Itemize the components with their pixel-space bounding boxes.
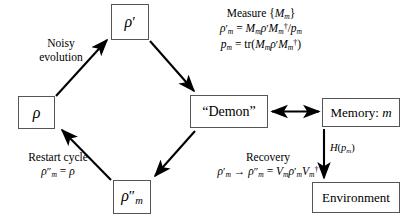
state-rho-box: ρ bbox=[18, 96, 55, 129]
state-rho-double-prime-box: ρ″m bbox=[113, 180, 151, 214]
memory-box: Memory: m bbox=[322, 98, 400, 127]
restart-cycle-formula: ρ″m = ρ bbox=[2, 164, 114, 179]
restart-cycle-line1: Restart cycle bbox=[2, 150, 114, 164]
noisy-evolution-label: Noisy evolution bbox=[12, 36, 110, 64]
measure-formula-rho: ρ′m = Mmρ′Mm†/pm bbox=[193, 21, 329, 36]
state-rho-label: ρ bbox=[33, 105, 41, 121]
measure-formula-p: pm = tr(Mmρ′Mm†) bbox=[193, 37, 329, 52]
demon-label: “Demon” bbox=[202, 105, 256, 119]
noisy-evolution-line2: evolution bbox=[12, 50, 110, 64]
environment-box: Environment bbox=[312, 182, 400, 213]
state-rho-prime-box: ρ′ bbox=[111, 4, 149, 40]
maxwell-demon-cycle-diagram: ρ ρ′ ρ″m “Demon” Memory: m Environment N… bbox=[0, 0, 411, 218]
recovery-line1: Recovery bbox=[188, 150, 348, 164]
recovery-formula: ρ′m → ρ″m = Vmρ′mVm† bbox=[188, 164, 348, 179]
measure-line1: Measure {Mm} bbox=[193, 6, 329, 21]
state-rho-double-prime-label: ρ″m bbox=[121, 188, 143, 207]
arrow-rho-prime-to-demon bbox=[150, 41, 194, 91]
restart-cycle-label: Restart cycle ρ″m = ρ bbox=[2, 150, 114, 179]
state-rho-prime-label: ρ′ bbox=[124, 14, 135, 30]
measure-label: Measure {Mm} ρ′m = Mmρ′Mm†/pm pm = tr(Mm… bbox=[193, 6, 329, 52]
noisy-evolution-line1: Noisy bbox=[12, 36, 110, 50]
demon-box: “Demon” bbox=[190, 95, 268, 128]
environment-label: Environment bbox=[322, 191, 390, 204]
entropy-label: H(pm) bbox=[330, 142, 355, 155]
recovery-label: Recovery ρ′m → ρ″m = Vmρ′mVm† bbox=[188, 150, 348, 179]
memory-label: Memory: m bbox=[330, 106, 391, 119]
